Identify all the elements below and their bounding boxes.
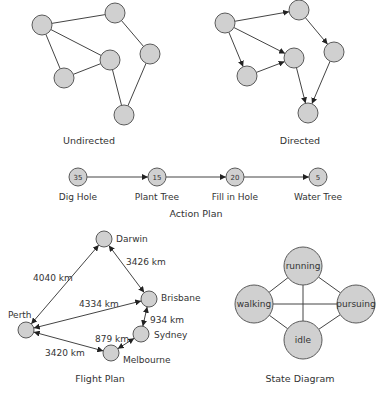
graph-node — [237, 66, 257, 86]
action-label: Fill in Hole — [212, 192, 259, 202]
state-diagram-graph: runningwalkingpursuingidle — [235, 247, 376, 359]
graph-node — [324, 42, 344, 62]
route-distance: 4040 km — [33, 273, 73, 283]
directed-graph — [215, 0, 344, 123]
city-label: Sydney — [154, 330, 188, 340]
state-label: idle — [295, 335, 312, 345]
action-label: Water Tree — [294, 192, 343, 202]
city-label: Brisbane — [161, 293, 201, 303]
city-node — [96, 231, 112, 247]
graph-node — [289, 0, 309, 20]
directed-caption: Directed — [280, 135, 320, 146]
flight-plan-caption: Flight Plan — [75, 373, 125, 384]
city-node — [103, 345, 119, 361]
city-label: Perth — [8, 310, 32, 320]
state-transition — [319, 315, 341, 330]
graph-node — [140, 44, 160, 64]
city-node — [18, 322, 34, 338]
city-label: Melbourne — [123, 355, 171, 365]
action-duration: 35 — [74, 174, 83, 182]
flight-plan-graph: 4040 km3426 km4334 km934 km879 km3420 km… — [8, 231, 201, 365]
edge — [229, 32, 243, 67]
action-label: Dig Hole — [59, 192, 98, 202]
state-label: pursuing — [336, 299, 375, 309]
edge — [305, 18, 327, 45]
flight-route — [109, 245, 144, 292]
route-distance: 879 km — [95, 334, 129, 344]
edge — [121, 21, 143, 47]
graph-node — [114, 105, 134, 125]
undirected-graph — [32, 3, 160, 125]
action-plan-graph: 35Dig Hole15Plant Tree20Fill in Hole5Wat… — [59, 168, 343, 202]
graph-node — [100, 50, 120, 70]
graph-node — [54, 68, 74, 88]
action-plan-caption: Action Plan — [170, 208, 223, 219]
edge — [296, 68, 305, 104]
city-node — [141, 291, 157, 307]
graph-node — [32, 15, 52, 35]
graph-node — [215, 13, 235, 33]
city-label: Darwin — [116, 234, 148, 244]
action-duration: 5 — [316, 174, 320, 182]
state-transition — [269, 278, 288, 293]
flight-route — [143, 307, 147, 326]
edge — [128, 63, 146, 106]
edge — [73, 64, 100, 75]
action-label: Plant Tree — [135, 192, 180, 202]
graph-node — [105, 3, 125, 23]
edge — [112, 70, 121, 106]
state-diagram-caption: State Diagram — [266, 373, 335, 384]
graph-node — [284, 48, 304, 68]
graph-node — [298, 103, 318, 123]
state-transition — [318, 277, 340, 293]
action-duration: 20 — [231, 174, 240, 182]
route-distance: 934 km — [150, 315, 184, 325]
edge — [235, 12, 289, 22]
edge — [51, 30, 101, 56]
edge — [46, 34, 60, 69]
flight-route — [31, 245, 99, 324]
route-distance: 3420 km — [45, 348, 85, 358]
action-duration: 15 — [153, 174, 162, 182]
city-node — [133, 326, 149, 342]
edge — [234, 28, 285, 54]
state-label: running — [286, 261, 321, 271]
edge — [52, 15, 105, 24]
edge — [256, 62, 284, 73]
state-label: walking — [237, 299, 272, 309]
edge — [312, 61, 330, 104]
state-transition — [269, 315, 287, 329]
graph-types-diagram: 35Dig Hole15Plant Tree20Fill in Hole5Wat… — [0, 0, 382, 394]
undirected-caption: Undirected — [63, 135, 115, 146]
route-distance: 3426 km — [126, 257, 166, 267]
route-distance: 4334 km — [79, 299, 119, 309]
